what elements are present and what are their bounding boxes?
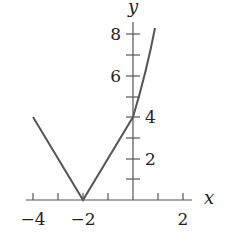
x-tick-label-neg2: −2 — [70, 209, 95, 229]
x-ticks — [33, 193, 183, 200]
y-axis-label: y — [127, 0, 139, 17]
x-tick-label-2: 2 — [178, 209, 189, 229]
x-tick-label-neg4: −4 — [20, 209, 45, 229]
parabola-chart: −4 −2 2 8 6 4 2 x y — [0, 0, 229, 251]
x-axis-label: x — [204, 187, 214, 208]
y-tick-label-6: 6 — [110, 66, 121, 86]
y-tick-label-8: 8 — [110, 24, 121, 44]
y-tick-label-4: 4 — [145, 107, 156, 127]
y-tick-label-2: 2 — [145, 149, 156, 169]
parabola-curve — [33, 28, 155, 200]
